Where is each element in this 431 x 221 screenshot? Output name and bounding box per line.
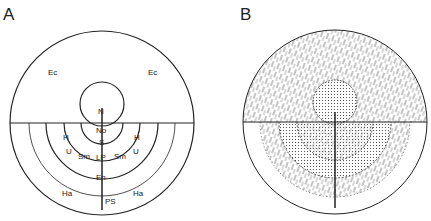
label-sm-right: Sm bbox=[114, 152, 126, 161]
label-no: No bbox=[96, 126, 107, 135]
label-n: N bbox=[98, 107, 104, 116]
panel-b-label: B bbox=[240, 5, 251, 24]
label-s: S bbox=[99, 138, 104, 147]
label-sm-left: Sm bbox=[78, 152, 90, 161]
label-ps: PS bbox=[105, 197, 116, 206]
panel-a-label: A bbox=[3, 5, 15, 24]
label-ec-left: Ec bbox=[48, 68, 57, 77]
label-en: En bbox=[96, 173, 106, 182]
panel-a: A Ec Ec N No S H H U U Sm Sm LP En Ha Ha… bbox=[3, 5, 194, 215]
label-ec-right: Ec bbox=[148, 68, 157, 77]
label-lp: LP bbox=[96, 153, 106, 162]
label-ha-right: Ha bbox=[133, 189, 144, 198]
panel-b: B bbox=[240, 5, 427, 214]
figure: A Ec Ec N No S H H U U Sm Sm LP En Ha Ha… bbox=[0, 0, 431, 221]
label-u-right: U bbox=[133, 147, 139, 156]
label-h-left: H bbox=[63, 133, 69, 142]
label-h-right: H bbox=[134, 133, 140, 142]
label-u-left: U bbox=[66, 147, 72, 156]
label-ha-left: Ha bbox=[62, 189, 73, 198]
